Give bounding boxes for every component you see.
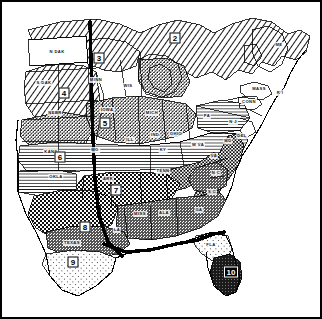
state-label-text: NEBR — [47, 109, 62, 115]
state-label-text: MICH — [145, 109, 159, 115]
region-marker-10[interactable]: 10 — [224, 267, 238, 278]
state-label-mass: MASS — [251, 87, 267, 91]
state-label-ark: ARK — [102, 177, 114, 181]
state-label-texas: TEXAS — [63, 241, 81, 245]
state-label-del: DEL — [236, 134, 248, 138]
region-9-area — [42, 250, 116, 296]
state-label-text: KY — [159, 146, 168, 152]
state-label-text: OKLA — [48, 173, 63, 179]
state-label-text: MD — [223, 137, 232, 143]
state-label-text: LA — [113, 226, 121, 232]
state-label-ill: ILL — [125, 138, 135, 142]
state-label-iowa: IOWA — [100, 108, 115, 112]
state-label-la: LA — [113, 228, 121, 232]
state-label-n-dak: N DAK — [48, 50, 65, 54]
state-label-text: TEXAS — [63, 239, 81, 245]
state-label-text: TENN — [156, 167, 171, 173]
state-label-r-i: R I — [276, 91, 285, 95]
state-label-text: MINN — [89, 76, 103, 82]
state-label-text: S DAK — [36, 79, 53, 85]
state-label-text: WIS — [122, 82, 133, 88]
state-label-text: ILL — [125, 136, 135, 142]
state-label-minn: MINN — [89, 78, 103, 82]
state-label-mo: MO — [90, 148, 100, 152]
state-label-s-c: S C — [207, 190, 217, 194]
state-label-me: ME — [274, 43, 283, 47]
state-label-s-dak: S DAK — [36, 81, 53, 85]
state-label-text: ALA — [158, 209, 170, 215]
state-label-text: GA — [194, 206, 203, 212]
state-label-md: MD — [223, 139, 232, 143]
state-label-text: IOWA — [100, 106, 115, 112]
state-label-text: R I — [276, 89, 285, 95]
state-label-nebr: NEBR — [47, 111, 62, 115]
region-marker-3[interactable]: 3 — [94, 53, 105, 64]
region-marker-6[interactable]: 6 — [55, 152, 66, 163]
state-label-wis: WIS — [122, 84, 133, 88]
state-label-mich: MICH — [145, 111, 159, 115]
state-label-text: MISS — [133, 210, 147, 216]
state-label-w-va: W VA — [191, 143, 205, 147]
state-label-ala: ALA — [158, 211, 170, 215]
state-label-text: N DAK — [48, 48, 65, 54]
state-label-text: MO — [90, 146, 100, 152]
region-marker-9[interactable]: 9 — [68, 257, 79, 268]
state-label-n-j: N J — [228, 120, 238, 124]
state-label-conn: CONN — [241, 100, 257, 104]
state-label-text: CONN — [241, 98, 257, 104]
state-label-text: ARK — [102, 175, 114, 181]
region-marker-5[interactable]: 5 — [100, 118, 111, 129]
state-label-okla: OKLA — [48, 175, 63, 179]
state-label-text: FLA — [205, 241, 216, 247]
state-label-text: IND — [150, 131, 160, 137]
state-label-text: MASS — [251, 85, 267, 91]
state-label-ky: KY — [159, 148, 168, 152]
region-marker-8[interactable]: 8 — [80, 222, 91, 233]
state-label-ga: GA — [194, 208, 203, 212]
state-label-text: PA — [203, 112, 211, 118]
map-canvas — [0, 0, 322, 319]
state-label-miss: MISS — [133, 212, 147, 216]
state-label-ind: IND — [150, 133, 160, 137]
region-marker-7[interactable]: 7 — [111, 185, 122, 196]
state-label-fla: FLA — [205, 243, 216, 247]
state-label-text: OHIO — [169, 130, 183, 136]
state-label-va: VA — [210, 154, 218, 158]
map-figure: N DAKS DAKNEBRMINNWISMICHIOWAKANSMOILLIN… — [0, 0, 322, 319]
state-label-text: VA — [210, 152, 218, 158]
state-label-text: N C — [211, 169, 221, 175]
state-label-text: S C — [207, 188, 217, 194]
state-label-tenn: TENN — [156, 169, 171, 173]
region-marker-4[interactable]: 4 — [59, 88, 70, 99]
state-label-text: N J — [228, 118, 238, 124]
state-label-text: ME — [274, 41, 283, 47]
state-label-ohio: OHIO — [169, 132, 183, 136]
state-label-text: DEL — [236, 132, 248, 138]
state-label-pa: PA — [203, 114, 211, 118]
region-marker-2[interactable]: 2 — [170, 33, 181, 44]
state-label-n-c: N C — [211, 171, 221, 175]
state-label-text: W VA — [191, 141, 205, 147]
